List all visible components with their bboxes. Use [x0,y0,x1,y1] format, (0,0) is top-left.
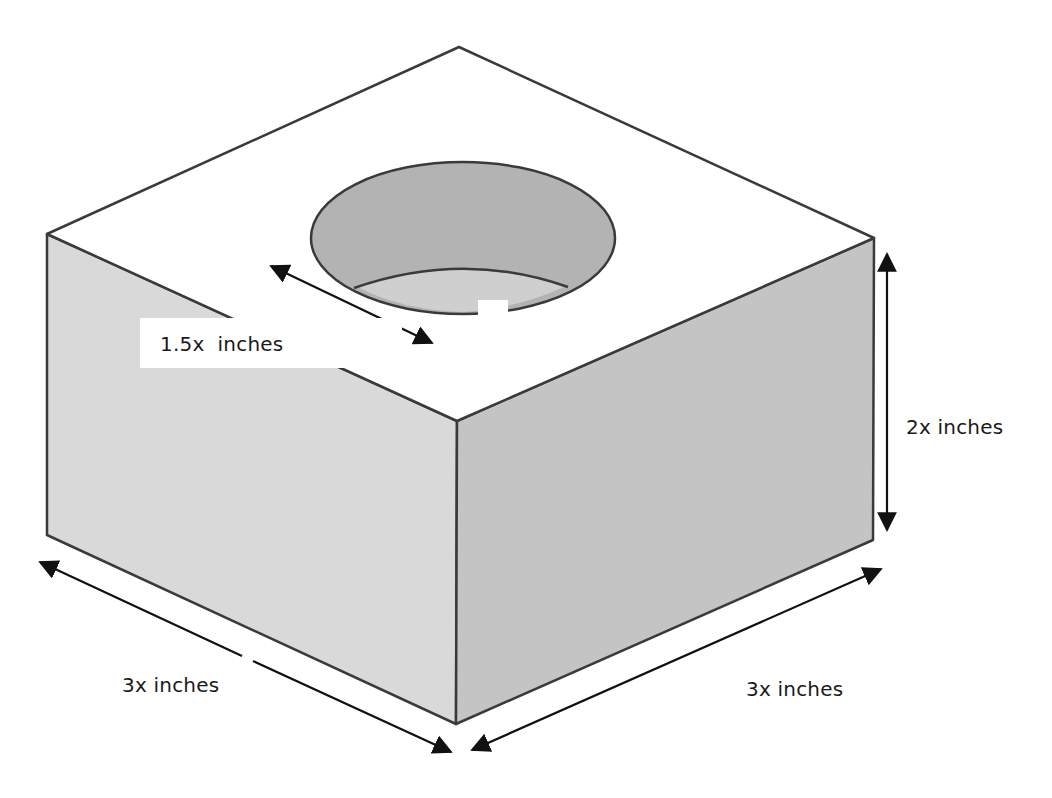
height-label: 2x inches [906,415,1003,439]
hole-diameter-label: 1.5x inches [160,332,283,356]
left-length-label: 3x inches [122,673,219,697]
cylindrical-hole [311,162,615,316]
right-width-label: 3x inches [746,677,843,701]
block-diagram: 1.5x inches 2x inches 3x inches 3x inche… [0,0,1052,798]
caption-text [0,780,700,798]
